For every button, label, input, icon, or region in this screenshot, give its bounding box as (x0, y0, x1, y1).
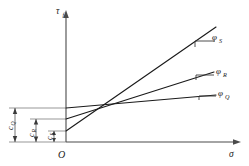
dimension-arrowhead-c-r-top (34, 119, 38, 125)
dimension-label-c-q-subscript: Q (10, 121, 16, 125)
angle-label-phi-q: φ (218, 88, 223, 98)
dimension-label-c-r-group: c R (27, 128, 37, 137)
x-axis-arrowhead (233, 139, 241, 145)
dimension-arrowhead-c-q-top (13, 108, 17, 114)
dimension-label-c-s: c (45, 136, 54, 140)
shear-strength-diagram: τ f σ O φ S φ R φ Q c Q c (0, 0, 249, 166)
origin-label: O (58, 149, 65, 160)
dimension-label-c-r-subscript: R (31, 128, 37, 133)
angle-label-phi-q-subscript: Q (225, 93, 230, 100)
angle-label-phi-r-subscript: R (222, 71, 227, 78)
angle-label-phi-s: φ (212, 32, 217, 42)
dimension-label-c-r: c (27, 133, 36, 137)
angle-labels-group: φ S φ R φ Q (212, 32, 230, 100)
axis-labels-group: τ f σ O (56, 6, 234, 160)
dimension-arrowhead-c-q-bottom (13, 136, 17, 142)
envelope-line-phi-q (66, 95, 216, 108)
dimension-label-c-q-group: c Q (6, 121, 16, 130)
dimension-label-c-s-group: c S (45, 132, 55, 140)
angle-label-phi-r: φ (216, 66, 221, 76)
x-axis-label: σ (229, 149, 234, 159)
dimension-label-c-q: c (6, 126, 15, 130)
dimension-label-c-s-subscript: S (49, 132, 55, 135)
envelopes-group (66, 27, 216, 131)
angle-label-phi-s-subscript: S (219, 37, 222, 44)
figure-container: τ f σ O φ S φ R φ Q c Q c (0, 0, 249, 166)
angle-reference-group (195, 41, 216, 100)
y-axis-label: τ (56, 6, 60, 16)
axes-group (63, 10, 241, 145)
